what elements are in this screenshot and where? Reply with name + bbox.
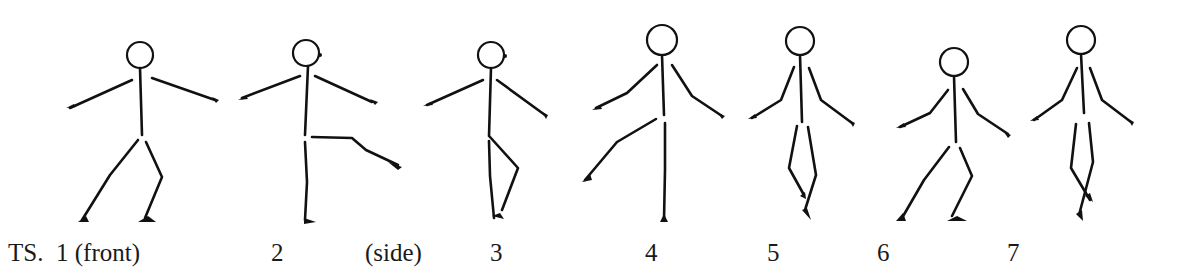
figure-2-note-label: (side) [365,240,422,265]
figure-6 [896,48,1011,221]
figure-5-label: 5 [767,240,780,265]
figure-4 [582,25,725,222]
figure-7-label: 7 [1007,240,1020,265]
figure-2-side [238,40,402,224]
figure-7 [1030,26,1134,221]
figure-3 [423,42,548,219]
figure-2-label: 2 [271,240,284,265]
stick-figure-diagram: TS. 1 (front) 2 (side) 3 4 5 6 7 [0,0,1188,274]
figure-3-label: 3 [490,240,503,265]
figure-5 [748,27,855,220]
figure-4-label: 4 [645,240,658,265]
series-prefix-label: TS. [8,240,43,265]
figure-6-label: 6 [877,240,890,265]
figure-1-front [66,42,219,222]
figure-1-label: 1 (front) [56,240,140,265]
